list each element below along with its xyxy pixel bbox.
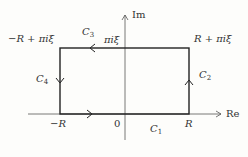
origin-label: 0 xyxy=(114,119,120,129)
segment-c3-label: C3 xyxy=(82,27,94,39)
vertex-top-axis-label: πiξ xyxy=(104,35,119,45)
real-axis-label: Re xyxy=(226,109,239,119)
segment-c1-label: C1 xyxy=(150,124,162,136)
segment-c2-label: C2 xyxy=(199,70,211,82)
contour-rectangle xyxy=(60,48,189,114)
vertex-top-right-label: R + πiξ xyxy=(194,34,232,44)
vertex-bottom-left-label: −R xyxy=(50,119,66,129)
contour-diagram: Im Re 0 −R + πiξ πiξ R + πiξ −R R C1 C2 … xyxy=(0,0,248,157)
vertex-bottom-right-label: R xyxy=(185,119,193,129)
segment-c4-label: C4 xyxy=(36,74,48,86)
imag-axis-label: Im xyxy=(132,10,145,20)
vertex-top-left-label: −R + πiξ xyxy=(8,34,54,44)
